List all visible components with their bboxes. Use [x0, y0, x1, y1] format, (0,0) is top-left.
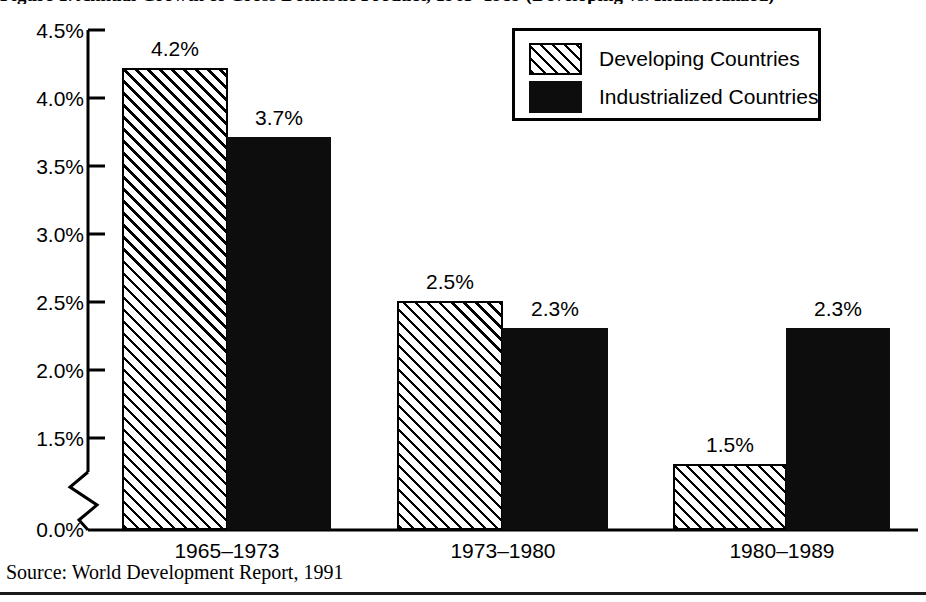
- legend-swatch-hatched-icon: [529, 43, 582, 75]
- bar-industrialized-1980-1989: [786, 328, 890, 530]
- legend-swatch-solid-icon: [529, 81, 582, 113]
- x-category-label-3: 1980–1989: [673, 540, 891, 561]
- source-note: Source: World Development Report, 1991: [6, 561, 343, 583]
- bar-value-label: 3.7%: [227, 107, 331, 128]
- bar-developing-1980-1989: [673, 464, 787, 530]
- bar-value-label: 2.3%: [786, 298, 890, 319]
- y-tick-label: 0.0%: [6, 519, 84, 540]
- bar-industrialized-1973-1980: [502, 328, 608, 530]
- y-tick-label: 2.5%: [6, 292, 84, 313]
- bar-industrialized-1965-1973: [227, 137, 331, 530]
- x-category-label-2: 1973–1980: [397, 540, 609, 561]
- bar-value-label: 2.3%: [502, 298, 608, 319]
- bar-developing-1973-1980: [397, 301, 503, 530]
- legend-label: Developing Countries: [599, 48, 800, 70]
- y-tick-label: 2.0%: [6, 360, 84, 381]
- bar-developing-1965-1973: [122, 68, 228, 530]
- y-axis-tick-labels: 4.5% 4.0% 3.5% 3.0% 2.5% 2.0% 1.5% 0.0%: [0, 0, 84, 545]
- y-tick-label: 3.0%: [6, 224, 84, 245]
- y-tick-label: 4.5%: [6, 20, 84, 41]
- x-category-label-1: 1965–1973: [122, 540, 332, 561]
- bar-value-label: 1.5%: [673, 434, 787, 455]
- y-tick-label: 4.0%: [6, 88, 84, 109]
- bar-value-label: 2.5%: [397, 271, 503, 292]
- plot-area: 4.5% 4.0% 3.5% 3.0% 2.5% 2.0% 1.5% 0.0% …: [0, 0, 926, 545]
- chart-legend: Developing Countries Industrialized Coun…: [512, 28, 821, 121]
- footer-divider: [0, 592, 926, 595]
- legend-label: Industrialized Countries: [599, 86, 818, 108]
- y-tick-label: 1.5%: [6, 428, 84, 449]
- chart-figure: Figure 1. Annual Growth of Gross Domesti…: [0, 0, 926, 602]
- bar-value-label: 4.2%: [122, 38, 228, 59]
- y-tick-label: 3.5%: [6, 156, 84, 177]
